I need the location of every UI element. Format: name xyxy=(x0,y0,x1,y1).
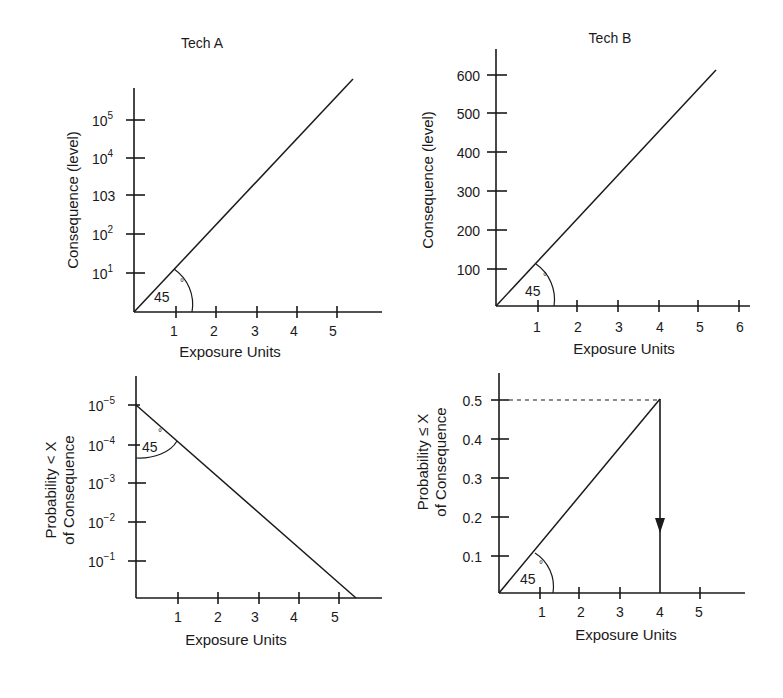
x-tick-label: 3 xyxy=(251,323,259,339)
y-tick-label: 600 xyxy=(457,68,481,84)
x-tick-label: 2 xyxy=(214,609,222,625)
x-tick-label: 4 xyxy=(656,604,664,620)
x-axis-label: Exposure Units xyxy=(573,340,675,357)
x-tick-label: 1 xyxy=(174,609,182,625)
figure: Tech A 1 2 3 4 5 Exposure Units 101 102 … xyxy=(0,0,783,698)
degree-symbol: ° xyxy=(539,559,543,570)
y-tick-label: 0.1 xyxy=(463,549,483,565)
y-tick-label: 105 xyxy=(92,110,114,129)
y-ticks: 10−1 10−2 10−3 10−4 10−5 xyxy=(88,395,146,570)
y-tick-label: 103 xyxy=(92,188,116,204)
y-tick-label: 10−4 xyxy=(88,435,115,454)
x-ticks: 1 2 3 4 5 xyxy=(170,306,337,339)
y-tick-label: 101 xyxy=(92,263,114,282)
x-tick-label: 1 xyxy=(170,323,178,339)
y-tick-label: 0.3 xyxy=(463,471,483,487)
chart-title: Tech A xyxy=(181,35,224,51)
x-tick-label: 3 xyxy=(251,609,259,625)
x-tick-label: 5 xyxy=(695,604,703,620)
x-tick-label: 5 xyxy=(329,323,337,339)
degree-symbol: ° xyxy=(543,271,547,282)
y-tick-label: 102 xyxy=(92,224,114,243)
angle-label: 45 xyxy=(525,283,541,299)
x-tick-label: 5 xyxy=(696,319,704,335)
y-axis-label-line1: Probability < X xyxy=(42,441,59,538)
x-tick-label: 1 xyxy=(538,604,546,620)
y-tick-label: 10−1 xyxy=(88,551,115,570)
y-tick-label: 10−3 xyxy=(88,473,115,492)
x-axis-label: Exposure Units xyxy=(185,631,287,648)
x-tick-label: 4 xyxy=(290,323,298,339)
y-axis-label-line2: of Consequence xyxy=(60,435,77,544)
x-tick-label: 2 xyxy=(577,604,585,620)
chart-tech-b: Tech B 1 2 3 4 5 6 Exposure Units 100 2 xyxy=(419,30,750,357)
y-tick-label: 500 xyxy=(457,106,481,122)
series-line xyxy=(499,399,660,593)
x-tick-label: 2 xyxy=(574,319,582,335)
y-ticks: 0.1 0.2 0.3 0.4 0.5 xyxy=(463,393,509,565)
angle-label: 45 xyxy=(154,289,170,305)
chart-tech-a: Tech A 1 2 3 4 5 Exposure Units 101 102 … xyxy=(64,35,382,360)
y-axis-label: Consequence (level) xyxy=(419,111,436,249)
y-axis-label-line2: of Consequence xyxy=(432,407,449,516)
y-ticks: 100 200 300 400 500 600 xyxy=(457,68,507,278)
angle-label: 45 xyxy=(142,439,158,455)
y-tick-label: 400 xyxy=(457,145,481,161)
y-tick-label: 10−5 xyxy=(88,395,115,414)
y-tick-label: 300 xyxy=(457,184,481,200)
x-tick-label: 2 xyxy=(210,323,218,339)
series-line xyxy=(136,405,356,598)
x-tick-label: 5 xyxy=(331,609,339,625)
y-tick-label: 104 xyxy=(92,148,114,167)
x-tick-label: 3 xyxy=(616,604,624,620)
chart-title: Tech B xyxy=(589,30,632,46)
arrow-down-icon xyxy=(655,518,665,533)
series-line xyxy=(496,70,716,306)
chart-probability-tech-a: 1 2 3 4 5 Exposure Units 10−1 10−2 10−3 … xyxy=(42,376,382,648)
y-tick-label: 100 xyxy=(457,262,481,278)
y-tick-label: 0.4 xyxy=(463,432,483,448)
x-axis-label: Exposure Units xyxy=(179,343,281,360)
angle-arc xyxy=(174,269,193,312)
x-tick-label: 4 xyxy=(656,319,664,335)
degree-symbol: ° xyxy=(158,427,162,438)
x-tick-label: 1 xyxy=(533,319,541,335)
y-tick-label: 200 xyxy=(457,223,481,239)
y-tick-label: 0.2 xyxy=(463,510,483,526)
y-tick-label: 0.5 xyxy=(463,393,483,409)
x-tick-label: 3 xyxy=(615,319,623,335)
degree-symbol: ° xyxy=(180,277,184,288)
x-tick-label: 6 xyxy=(736,319,744,335)
y-tick-label: 10−2 xyxy=(88,512,115,531)
x-ticks: 1 2 3 4 5 xyxy=(538,587,703,620)
angle-arc xyxy=(535,553,553,593)
chart-probability-tech-b: 1 2 3 4 5 Exposure Units 0.1 0.2 0.3 0.4… xyxy=(414,373,745,643)
x-ticks: 1 2 3 4 5 xyxy=(174,592,339,625)
y-ticks: 101 102 103 104 105 xyxy=(92,110,145,282)
angle-label: 45 xyxy=(520,571,536,587)
series-line xyxy=(134,79,353,312)
x-tick-label: 4 xyxy=(290,609,298,625)
x-axis-label: Exposure Units xyxy=(575,626,677,643)
y-axis-label-line1: Probability ≤ X xyxy=(414,414,431,511)
y-axis-label: Consequence (level) xyxy=(64,131,81,269)
